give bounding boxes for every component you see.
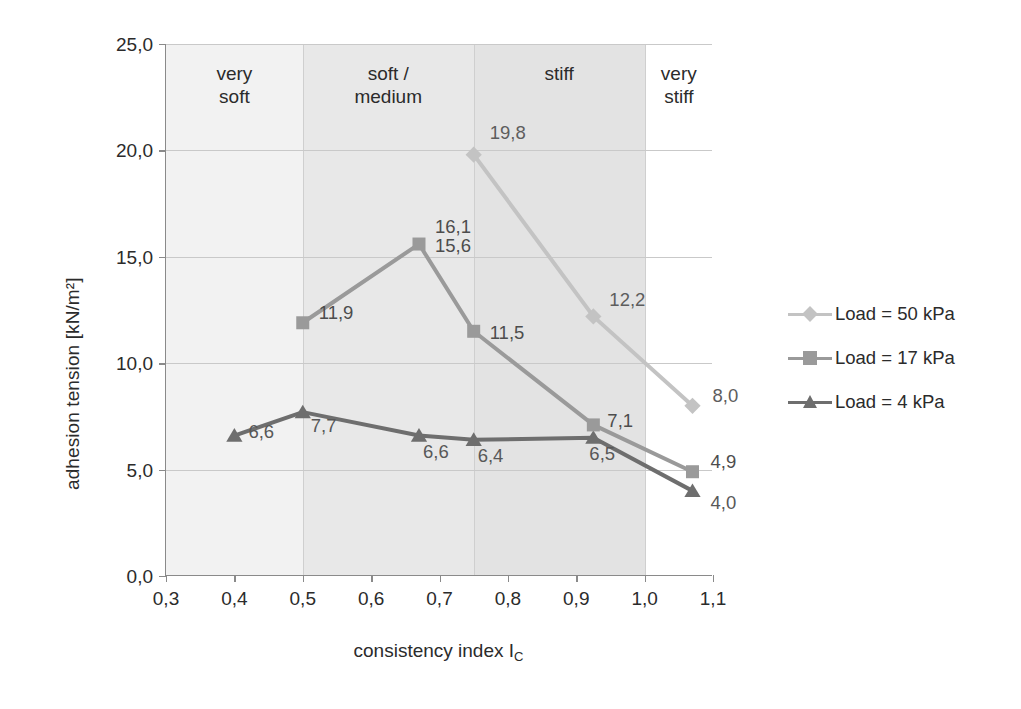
legend-label: Load = 4 kPa xyxy=(835,391,945,413)
legend-item-0[interactable]: Load = 50 kPa xyxy=(788,292,1013,336)
y-tick-0 xyxy=(159,576,166,577)
x-axis-title-text: consistency index I xyxy=(354,640,515,661)
x-tick-label-0: 0,3 xyxy=(153,589,179,608)
x-tick-label-6: 0,9 xyxy=(563,589,589,608)
data-label: 11,9 xyxy=(319,304,354,323)
data-label: 6,4 xyxy=(478,447,504,466)
data-point-marker xyxy=(587,418,600,431)
data-point-marker xyxy=(467,325,480,338)
y-tick-1 xyxy=(159,470,166,471)
x-tick-5 xyxy=(508,575,509,582)
y-tick-label-0: 0,0 xyxy=(127,567,153,586)
x-tick-6 xyxy=(576,575,577,582)
legend-symbol xyxy=(802,306,818,322)
data-label: 12,2 xyxy=(609,291,645,310)
data-label: 4,9 xyxy=(710,453,736,472)
series-layer xyxy=(166,44,713,576)
y-tick-label-1: 5,0 xyxy=(127,460,153,479)
x-tick-1 xyxy=(234,575,235,582)
x-tick-label-3: 0,6 xyxy=(358,589,384,608)
data-label: 6,5 xyxy=(589,445,615,464)
x-tick-4 xyxy=(440,575,441,582)
data-label-annotation: 16,1 xyxy=(435,218,471,237)
data-label: 7,7 xyxy=(311,417,337,436)
plot-area: 0,05,010,015,020,025,0 0,30,40,50,60,70,… xyxy=(165,44,712,576)
y-tick-label-5: 25,0 xyxy=(116,35,153,54)
x-tick-3 xyxy=(371,575,372,582)
data-label: 15,6 xyxy=(435,237,471,256)
data-point-marker xyxy=(684,483,700,497)
legend-symbol xyxy=(803,395,817,408)
y-tick-label-4: 20,0 xyxy=(116,141,153,160)
data-label: 6,6 xyxy=(423,443,449,462)
data-label: 6,6 xyxy=(248,423,274,442)
x-tick-label-4: 0,7 xyxy=(426,589,452,608)
data-label: 4,0 xyxy=(710,494,736,513)
adhesion-tension-chart: adhesion tension [kN/m²] consistency ind… xyxy=(0,0,1021,709)
x-tick-label-2: 0,5 xyxy=(290,589,316,608)
legend-marker-square-icon xyxy=(788,348,832,368)
legend-marker-triangle-icon xyxy=(788,392,832,412)
x-tick-label-1: 0,4 xyxy=(221,589,247,608)
x-tick-2 xyxy=(303,575,304,582)
x-tick-label-8: 1,1 xyxy=(700,589,726,608)
legend-item-1[interactable]: Load = 17 kPa xyxy=(788,336,1013,380)
y-tick-label-2: 10,0 xyxy=(116,354,153,373)
data-label: 7,1 xyxy=(607,412,633,431)
y-axis-title: adhesion tension [kN/m²] xyxy=(62,150,88,490)
data-label: 8,0 xyxy=(712,387,738,406)
data-point-marker xyxy=(412,238,425,251)
y-tick-2 xyxy=(159,363,166,364)
data-point-marker xyxy=(686,465,699,478)
legend-label: Load = 17 kPa xyxy=(835,347,955,369)
legend-marker-diamond-icon xyxy=(788,304,832,324)
x-axis-title: consistency index IC xyxy=(165,640,712,664)
legend-symbol xyxy=(803,351,817,365)
y-tick-5 xyxy=(159,44,166,45)
x-tick-label-5: 0,8 xyxy=(495,589,521,608)
data-label: 11,5 xyxy=(490,324,525,343)
y-tick-4 xyxy=(159,150,166,151)
x-tick-8 xyxy=(713,575,714,582)
legend-label: Load = 50 kPa xyxy=(835,303,955,325)
y-tick-label-3: 15,0 xyxy=(116,247,153,266)
x-tick-7 xyxy=(645,575,646,582)
x-axis-title-subscript: C xyxy=(514,649,523,664)
x-tick-0 xyxy=(166,575,167,582)
y-tick-3 xyxy=(159,257,166,258)
data-point-marker xyxy=(296,316,309,329)
data-label: 19,8 xyxy=(490,124,526,143)
legend-item-2[interactable]: Load = 4 kPa xyxy=(788,380,1013,424)
legend: Load = 50 kPaLoad = 17 kPaLoad = 4 kPa xyxy=(788,292,1013,424)
x-tick-label-7: 1,0 xyxy=(631,589,657,608)
series-line-load-50-kpa xyxy=(474,155,693,406)
